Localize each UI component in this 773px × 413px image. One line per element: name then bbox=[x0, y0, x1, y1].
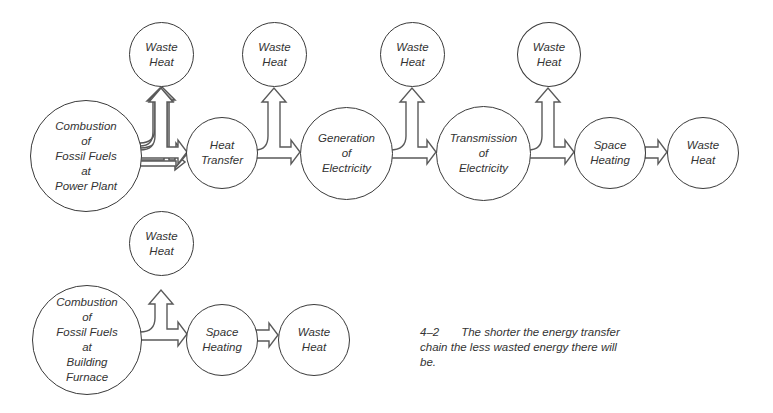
node-label: Heat bbox=[262, 55, 286, 70]
node-label: Waste bbox=[533, 40, 565, 55]
node-label: of bbox=[342, 146, 352, 161]
node-label: at bbox=[82, 340, 92, 355]
node-label: Heat bbox=[210, 138, 234, 153]
node-label: Fossil Fuels bbox=[56, 325, 117, 340]
node-label: Fossil Fuels bbox=[55, 149, 116, 164]
node-waste-heat-end-1: Waste Heat bbox=[667, 117, 739, 189]
node-label: Transfer bbox=[201, 153, 243, 168]
node-label: Heating bbox=[202, 340, 242, 355]
node-label: Waste bbox=[258, 40, 290, 55]
node-waste-heat-4: Waste Heat bbox=[517, 22, 581, 87]
node-label: Electricity bbox=[322, 161, 371, 176]
node-label: Space bbox=[594, 138, 627, 153]
node-waste-heat-5: Waste Heat bbox=[129, 211, 194, 276]
node-label: of bbox=[479, 146, 489, 161]
node-transmission: Transmission of Electricity bbox=[436, 106, 531, 201]
node-label: Waste bbox=[396, 40, 428, 55]
caption-text: The shorter the energy transfer chain th… bbox=[420, 326, 620, 368]
node-label: Heat bbox=[691, 153, 715, 168]
node-label: Heat bbox=[149, 244, 173, 259]
node-label: Power Plant bbox=[55, 179, 117, 194]
node-label: Waste bbox=[145, 229, 177, 244]
node-label: Heat bbox=[149, 55, 173, 70]
node-label: of bbox=[81, 134, 91, 149]
node-label: Transmission bbox=[450, 131, 518, 146]
node-space-heating-2: Space Heating bbox=[186, 304, 258, 376]
node-label: Electricity bbox=[459, 161, 508, 176]
node-label: Heating bbox=[590, 153, 630, 168]
node-label: Combustion bbox=[55, 119, 116, 134]
node-label: Waste bbox=[687, 138, 719, 153]
node-waste-heat-1: Waste Heat bbox=[129, 22, 194, 87]
node-label: Waste bbox=[145, 40, 177, 55]
node-label: of bbox=[82, 310, 92, 325]
node-label: Heat bbox=[537, 55, 561, 70]
node-generation: Generation of Electricity bbox=[300, 107, 393, 200]
figure-number: 4–2 bbox=[420, 326, 439, 338]
node-heat-transfer: Heat Transfer bbox=[186, 117, 258, 189]
node-label: Space bbox=[206, 325, 239, 340]
node-label: Building bbox=[67, 355, 108, 370]
node-label: Heat bbox=[302, 340, 326, 355]
node-waste-heat-3: Waste Heat bbox=[380, 22, 445, 87]
node-label: at bbox=[81, 164, 91, 179]
node-label: Generation bbox=[318, 131, 375, 146]
node-label: Heat bbox=[400, 55, 424, 70]
node-label: Furnace bbox=[66, 370, 108, 385]
node-label: Waste bbox=[298, 325, 330, 340]
figure-caption: 4–2The shorter the energy transfer chain… bbox=[420, 325, 620, 370]
node-space-heating-1: Space Heating bbox=[574, 117, 646, 189]
node-combustion-power-plant: Combustion of Fossil Fuels at Power Plan… bbox=[30, 100, 142, 212]
node-label: Combustion bbox=[56, 295, 117, 310]
node-waste-heat-end-2: Waste Heat bbox=[278, 304, 350, 376]
node-waste-heat-2: Waste Heat bbox=[242, 22, 307, 87]
node-combustion-building-furnace: Combustion of Fossil Fuels at Building F… bbox=[32, 285, 142, 395]
